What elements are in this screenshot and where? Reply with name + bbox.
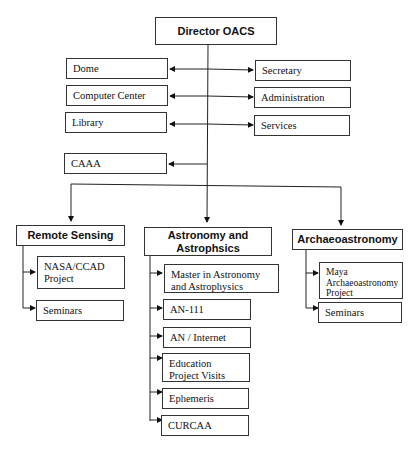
unit-services: Services xyxy=(254,115,350,136)
item-nasa-ccad: NASA/CCAD Project xyxy=(37,256,125,289)
item-label: AN / Internet xyxy=(170,332,226,344)
dept-astronomy: Astronomy and Astrophsics xyxy=(144,227,272,256)
director-box: Director OACS xyxy=(155,17,277,45)
unit-label: CAAA xyxy=(71,158,101,170)
item-label: Seminars xyxy=(325,307,364,319)
unit-label: Library xyxy=(72,117,104,129)
item-education: Education Project Visits xyxy=(162,353,250,382)
dept-archaeoastronomy: Archaeoastronomy xyxy=(292,229,403,250)
item-label: Education Project Visits xyxy=(169,358,225,381)
unit-dome: Dome xyxy=(66,58,168,79)
unit-label: Administration xyxy=(261,92,325,104)
item-master: Master in Astronomy and Astrophysics xyxy=(164,264,279,293)
item-an111: AN-111 xyxy=(163,299,251,320)
unit-label: Services xyxy=(261,120,297,132)
dept-title: Remote Sensing xyxy=(27,229,113,242)
dept-title: Archaeoastronomy xyxy=(297,233,397,246)
unit-library: Library xyxy=(65,112,167,133)
dept-remote-sensing: Remote Sensing xyxy=(16,225,125,246)
item-label: NASA/CCAD Project xyxy=(44,261,105,284)
unit-label: Secretary xyxy=(262,65,302,77)
dept-title: Astronomy and Astrophsics xyxy=(163,229,253,255)
item-seminars-rs: Seminars xyxy=(36,300,124,321)
item-label: Maya Archaeoastronomy Project xyxy=(326,267,398,298)
unit-label: Computer Center xyxy=(73,90,146,102)
item-label: Ephemeris xyxy=(169,393,214,405)
unit-secretary: Secretary xyxy=(255,60,351,81)
item-ephemeris: Ephemeris xyxy=(162,388,249,409)
director-label: Director OACS xyxy=(177,25,254,38)
item-curcaa: CURCAA xyxy=(161,415,249,436)
item-label: CURCAA xyxy=(168,420,212,432)
item-an-internet: AN / Internet xyxy=(163,327,251,348)
unit-computer-center: Computer Center xyxy=(66,85,168,106)
item-label: AN-111 xyxy=(170,304,204,316)
item-label: Seminars xyxy=(43,305,82,317)
item-label: Master in Astronomy and Astrophysics xyxy=(171,269,260,292)
item-seminars-arch: Seminars xyxy=(318,302,402,323)
unit-administration: Administration xyxy=(254,87,351,108)
unit-caaa: CAAA xyxy=(64,153,167,174)
unit-label: Dome xyxy=(73,63,99,75)
item-maya: Maya Archaeoastronomy Project xyxy=(319,262,403,299)
